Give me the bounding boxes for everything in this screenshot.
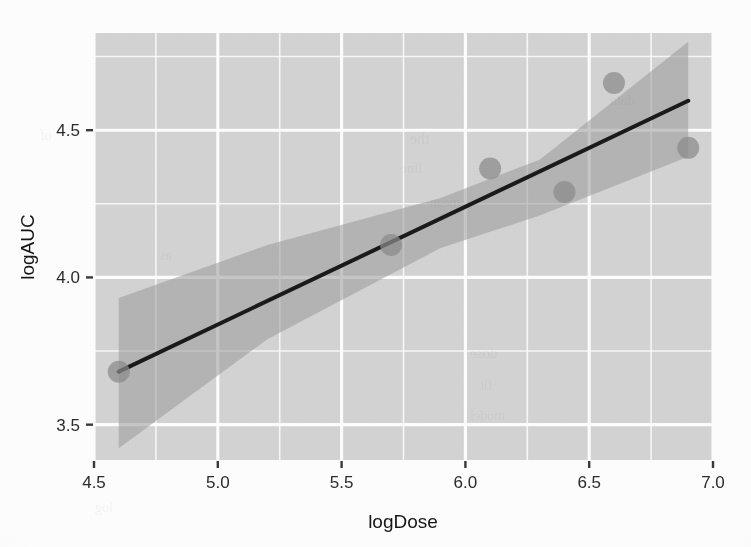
x-tick-label: 7.0 [701, 473, 725, 492]
x-tick-label: 5.5 [330, 473, 354, 492]
scatter-plot-with-regression: 4.55.05.56.06.57.0 4.54.03.5 logDose log… [0, 0, 751, 547]
data-point [108, 361, 130, 383]
y-tick-label: 3.5 [56, 416, 80, 435]
data-point [479, 157, 501, 179]
y-tick-label: 4.0 [56, 268, 80, 287]
chart-container: 4.55.05.56.06.57.0 4.54.03.5 logDose log… [0, 0, 751, 547]
data-point [380, 234, 402, 256]
y-axis-title: logAUC [17, 214, 38, 279]
x-tick-label: 5.0 [206, 473, 230, 492]
data-point [553, 181, 575, 203]
data-point [677, 137, 699, 159]
y-tick-label: 4.5 [56, 121, 80, 140]
x-axis-title: logDose [368, 511, 438, 532]
x-tick-label: 6.5 [577, 473, 601, 492]
x-tick-label: 6.0 [454, 473, 478, 492]
x-tick-label: 4.5 [82, 473, 106, 492]
data-point [603, 72, 625, 94]
